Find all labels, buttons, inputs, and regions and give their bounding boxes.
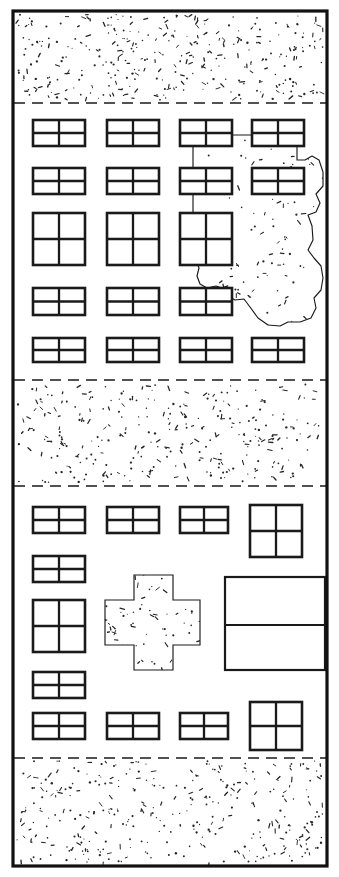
building-u-r1-c2 bbox=[107, 120, 159, 146]
building-u-r3-c2 bbox=[107, 213, 159, 265]
building-u-r2-c4 bbox=[252, 168, 304, 194]
building-l-r1-c2 bbox=[107, 507, 159, 533]
building-u-r1-c1 bbox=[33, 120, 85, 146]
building-u-r5-c2 bbox=[107, 338, 159, 362]
building-l-big-block bbox=[225, 577, 325, 670]
building-u-r3-c3 bbox=[180, 213, 232, 265]
site-plan-drawing bbox=[0, 0, 339, 877]
building-u-r5-c4 bbox=[252, 338, 304, 362]
building-l-r5-c3 bbox=[180, 713, 228, 739]
building-u-r3-c1 bbox=[33, 213, 85, 265]
building-l-r1-c3 bbox=[180, 507, 228, 533]
building-u-r4-c2 bbox=[107, 288, 159, 315]
building-u-r4-c1 bbox=[33, 288, 85, 315]
building-l-r1-c4 bbox=[250, 505, 302, 557]
large-rectangle-group bbox=[225, 577, 325, 670]
building-l-r2-c1 bbox=[33, 556, 85, 582]
building-l-r5-c1 bbox=[33, 713, 85, 739]
building-u-r1-c4 bbox=[252, 120, 304, 146]
plan-canvas bbox=[0, 0, 339, 877]
building-l-r5-c2 bbox=[107, 713, 159, 739]
building-u-r2-c1 bbox=[33, 168, 85, 194]
building-u-r4-c3 bbox=[180, 288, 232, 315]
building-l-r1-c1 bbox=[33, 507, 85, 533]
building-u-r5-c3 bbox=[180, 338, 232, 362]
building-u-r1-c3 bbox=[180, 120, 232, 146]
building-u-r2-c2 bbox=[107, 168, 159, 194]
building-l-r3-c1 bbox=[33, 600, 85, 652]
building-l-r5-c4 bbox=[250, 702, 302, 750]
building-l-r4-c1 bbox=[33, 672, 85, 698]
building-u-r2-c3 bbox=[180, 168, 232, 194]
building-u-r5-c1 bbox=[33, 338, 85, 362]
